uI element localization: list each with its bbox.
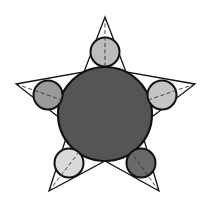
small-circle-bottom-left: [55, 149, 84, 178]
center-circle: [58, 67, 152, 161]
small-circle-bottom-right: [127, 149, 156, 178]
star-circles-diagram: [0, 0, 208, 202]
